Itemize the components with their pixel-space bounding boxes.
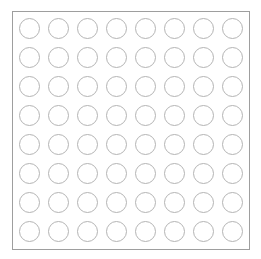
grid-circle[interactable] <box>48 76 69 97</box>
grid-circle[interactable] <box>19 76 40 97</box>
grid-circle[interactable] <box>77 105 98 126</box>
grid-circle[interactable] <box>193 105 214 126</box>
grid-circle[interactable] <box>77 192 98 213</box>
grid-circle[interactable] <box>19 47 40 68</box>
grid-circle[interactable] <box>222 134 243 155</box>
grid-circle[interactable] <box>106 47 127 68</box>
grid-circle[interactable] <box>77 47 98 68</box>
grid-circle[interactable] <box>77 76 98 97</box>
grid-circle[interactable] <box>164 192 185 213</box>
grid-circle[interactable] <box>222 163 243 184</box>
grid-circle[interactable] <box>193 76 214 97</box>
grid-circle[interactable] <box>164 105 185 126</box>
grid-circle[interactable] <box>164 163 185 184</box>
grid-circle[interactable] <box>19 105 40 126</box>
grid-circle[interactable] <box>106 134 127 155</box>
grid-circle[interactable] <box>222 105 243 126</box>
grid-circle[interactable] <box>135 134 156 155</box>
grid-circle[interactable] <box>164 47 185 68</box>
grid-circle[interactable] <box>19 134 40 155</box>
grid-circle[interactable] <box>135 192 156 213</box>
grid-circle[interactable] <box>19 163 40 184</box>
grid-circle[interactable] <box>135 105 156 126</box>
grid-circle[interactable] <box>135 76 156 97</box>
grid-circle[interactable] <box>135 47 156 68</box>
grid-circle[interactable] <box>164 221 185 242</box>
grid-circle[interactable] <box>193 192 214 213</box>
grid-circle[interactable] <box>222 47 243 68</box>
grid-circle[interactable] <box>222 221 243 242</box>
grid-circle[interactable] <box>48 163 69 184</box>
grid-circle[interactable] <box>77 134 98 155</box>
grid-circle[interactable] <box>77 221 98 242</box>
grid-circle[interactable] <box>106 18 127 39</box>
grid-circle[interactable] <box>193 163 214 184</box>
grid-circle[interactable] <box>135 18 156 39</box>
grid-circle[interactable] <box>222 192 243 213</box>
grid-circle[interactable] <box>164 18 185 39</box>
grid-circle[interactable] <box>193 221 214 242</box>
grid-circle[interactable] <box>48 221 69 242</box>
grid-frame-border <box>12 11 250 250</box>
grid-circle[interactable] <box>77 18 98 39</box>
grid-circle[interactable] <box>19 192 40 213</box>
grid-circle[interactable] <box>19 18 40 39</box>
grid-circle[interactable] <box>48 18 69 39</box>
grid-circle[interactable] <box>222 76 243 97</box>
grid-circle[interactable] <box>193 47 214 68</box>
circle-grid <box>19 18 243 242</box>
grid-circle[interactable] <box>193 134 214 155</box>
grid-circle[interactable] <box>222 18 243 39</box>
grid-circle[interactable] <box>77 163 98 184</box>
grid-circle[interactable] <box>164 76 185 97</box>
grid-circle[interactable] <box>164 134 185 155</box>
grid-circle[interactable] <box>106 163 127 184</box>
grid-circle[interactable] <box>106 192 127 213</box>
grid-circle[interactable] <box>48 134 69 155</box>
grid-circle[interactable] <box>135 221 156 242</box>
figure-canvas <box>0 0 261 259</box>
grid-circle[interactable] <box>106 105 127 126</box>
grid-circle[interactable] <box>193 18 214 39</box>
grid-circle[interactable] <box>48 192 69 213</box>
grid-circle[interactable] <box>48 105 69 126</box>
grid-circle[interactable] <box>48 47 69 68</box>
grid-circle[interactable] <box>19 221 40 242</box>
grid-circle[interactable] <box>106 76 127 97</box>
grid-circle[interactable] <box>106 221 127 242</box>
grid-circle[interactable] <box>135 163 156 184</box>
